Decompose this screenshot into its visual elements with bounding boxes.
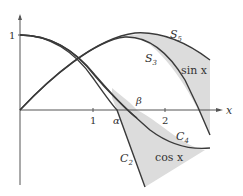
x-axis-label: x [226, 104, 233, 117]
taylor-approximation-diagram: 1 1 2 x α β S5 S3 sin x C4 C2 cos x [0, 0, 243, 196]
y-tick-label: 1 [9, 30, 15, 41]
cos-label: cos x [155, 151, 184, 164]
s3-label: S3 [145, 52, 158, 67]
c4-label: C4 [176, 130, 189, 145]
alpha-label: α [113, 115, 120, 126]
x-tick-label-1: 1 [90, 115, 96, 126]
cos-error-region [112, 88, 205, 187]
y-axis-arrow-icon [18, 14, 22, 20]
s5-label: S5 [170, 28, 183, 43]
x-axis-arrow-icon [216, 108, 223, 112]
sin-label: sin x [181, 64, 208, 77]
x-tick-label-2: 2 [162, 115, 168, 126]
beta-label: β [135, 95, 142, 106]
c2-label: C2 [120, 152, 133, 167]
